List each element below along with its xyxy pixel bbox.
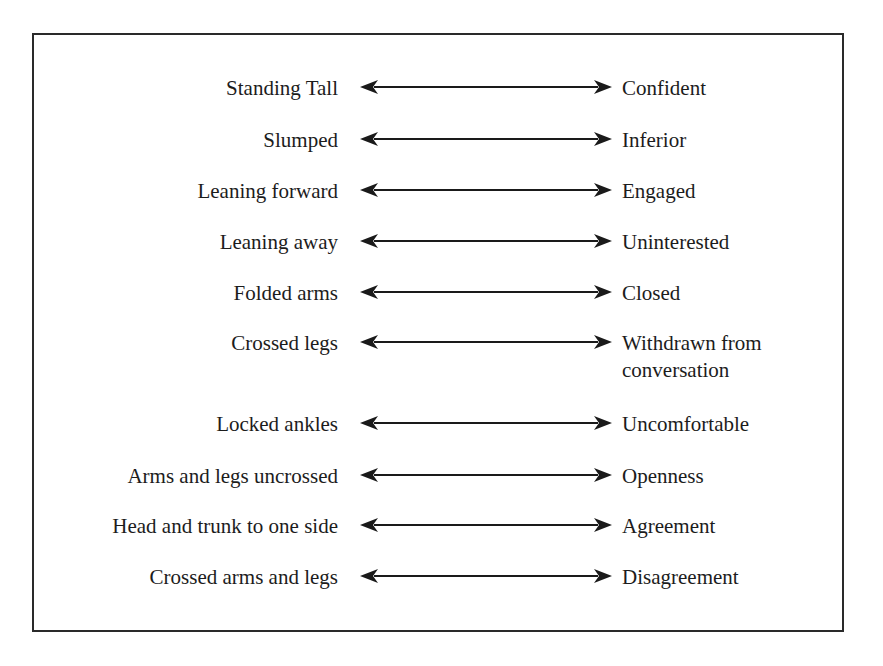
mapping-row: Crossed legs Withdrawn from conversation bbox=[0, 330, 883, 360]
mapping-row: Leaning forward Engaged bbox=[0, 178, 883, 208]
posture-label: Locked ankles bbox=[216, 411, 338, 437]
double-arrow-icon bbox=[360, 79, 612, 95]
meaning-label: Closed bbox=[622, 280, 680, 307]
double-arrow-icon bbox=[360, 568, 612, 584]
meaning-label: Engaged bbox=[622, 178, 695, 205]
double-arrow-icon bbox=[360, 467, 612, 483]
double-arrow-icon bbox=[360, 131, 612, 147]
meaning-label: Disagreement bbox=[622, 564, 739, 591]
meaning-label: Withdrawn from conversation bbox=[622, 330, 762, 384]
posture-label: Leaning forward bbox=[197, 178, 338, 204]
mapping-row: Standing Tall Confident bbox=[0, 75, 883, 105]
meaning-label: Uninterested bbox=[622, 229, 729, 256]
posture-label: Crossed legs bbox=[231, 330, 338, 356]
meaning-label: Openness bbox=[622, 463, 704, 490]
posture-label: Folded arms bbox=[234, 280, 338, 306]
mapping-row: Slumped Inferior bbox=[0, 127, 883, 157]
meaning-label: Uncomfortable bbox=[622, 411, 749, 438]
double-arrow-icon bbox=[360, 334, 612, 350]
mapping-row: Head and trunk to one side Agreement bbox=[0, 513, 883, 543]
double-arrow-icon bbox=[360, 182, 612, 198]
mapping-row: Arms and legs uncrossed Openness bbox=[0, 463, 883, 493]
double-arrow-icon bbox=[360, 517, 612, 533]
meaning-label: Confident bbox=[622, 75, 706, 102]
posture-label: Leaning away bbox=[220, 229, 338, 255]
mapping-row: Leaning away Uninterested bbox=[0, 229, 883, 259]
double-arrow-icon bbox=[360, 284, 612, 300]
posture-label: Head and trunk to one side bbox=[112, 513, 338, 539]
posture-label: Arms and legs uncrossed bbox=[127, 463, 338, 489]
posture-label: Slumped bbox=[263, 127, 338, 153]
meaning-label: Inferior bbox=[622, 127, 686, 154]
mapping-row: Crossed arms and legs Disagreement bbox=[0, 564, 883, 594]
mapping-row: Folded arms Closed bbox=[0, 280, 883, 310]
double-arrow-icon bbox=[360, 415, 612, 431]
double-arrow-icon bbox=[360, 233, 612, 249]
posture-label: Crossed arms and legs bbox=[150, 564, 338, 590]
posture-label: Standing Tall bbox=[226, 75, 338, 101]
mapping-row: Locked ankles Uncomfortable bbox=[0, 411, 883, 441]
meaning-label: Agreement bbox=[622, 513, 715, 540]
